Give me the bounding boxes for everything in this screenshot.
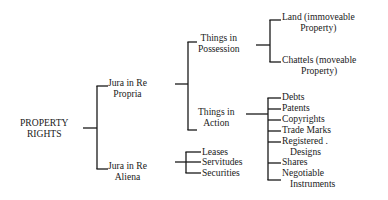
node-jura-in-re-propria: Jura in Re Propria xyxy=(108,78,147,99)
node-things-in-action: Things in Action xyxy=(198,107,235,128)
node-patents: Patents xyxy=(282,103,310,114)
node-property-rights: PROPERTY RIGHTS xyxy=(20,118,68,139)
node-land: Land (immoveable Property) xyxy=(282,12,355,33)
node-things-in-possession: Things in Possession xyxy=(198,33,240,54)
node-copyrights: Copyrights xyxy=(282,114,325,125)
node-negotiable-instruments: Negotiable Instruments xyxy=(282,168,335,189)
node-chattels: Chattels (moveable Property) xyxy=(282,55,356,76)
node-trade-marks: Trade Marks xyxy=(282,125,331,136)
node-registered-designs: Registered . Designs xyxy=(282,136,328,157)
node-debts: Debts xyxy=(282,92,304,103)
node-jura-in-re-aliena: Jura in Re Aliena xyxy=(108,161,147,182)
node-securities: Securities xyxy=(202,168,240,179)
node-shares: Shares xyxy=(282,157,308,168)
node-servitudes: Servitudes xyxy=(202,157,243,168)
